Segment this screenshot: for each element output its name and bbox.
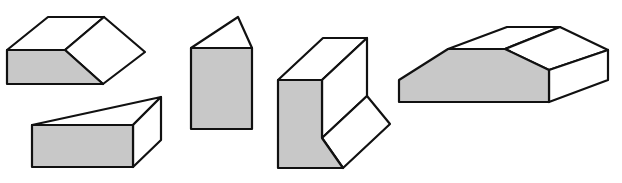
solid-3-top-face xyxy=(191,17,252,48)
solid-4-notched-block xyxy=(278,38,390,168)
solid-1-chamfered-block xyxy=(7,17,145,84)
solid-3-triangular-prism xyxy=(191,17,252,129)
solid-2-wedge xyxy=(32,97,161,167)
solid-3-front-face xyxy=(191,48,252,129)
solids-diagram xyxy=(0,0,622,183)
solid-5-beveled-block xyxy=(399,27,608,102)
solid-2-front-face xyxy=(32,125,133,167)
